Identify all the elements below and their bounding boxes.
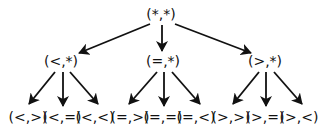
node-eq_lt: (=,<) — [177, 109, 216, 125]
edge-gt-to-gt_gt — [233, 72, 259, 104]
node-lt: (<,*) — [44, 53, 78, 69]
edge-root-to-lt — [79, 24, 150, 53]
edge-eq-to-eq_lt — [172, 72, 200, 104]
node-root: (*,*) — [146, 6, 175, 22]
tree-diagram: (*,*)(<,*)(=,*)(>,*)(<,>)(<,=)(<,<)(=,>)… — [0, 0, 333, 135]
nodes-group: (*,*)(<,*)(=,*)(>,*)(<,>)(<,=)(<,<)(=,>)… — [9, 6, 319, 125]
edge-lt-to-lt_lt — [70, 72, 98, 104]
node-lt_lt: (<,<) — [76, 109, 115, 125]
edge-gt-to-gt_lt — [274, 72, 302, 104]
node-eq: (=,*) — [146, 53, 180, 69]
edge-lt-to-lt_gt — [29, 72, 55, 104]
node-gt: (>,*) — [248, 53, 282, 69]
node-gt_lt: (>,<) — [280, 109, 319, 125]
edge-root-to-gt — [175, 24, 251, 53]
edge-eq-to-eq_gt — [129, 72, 157, 104]
